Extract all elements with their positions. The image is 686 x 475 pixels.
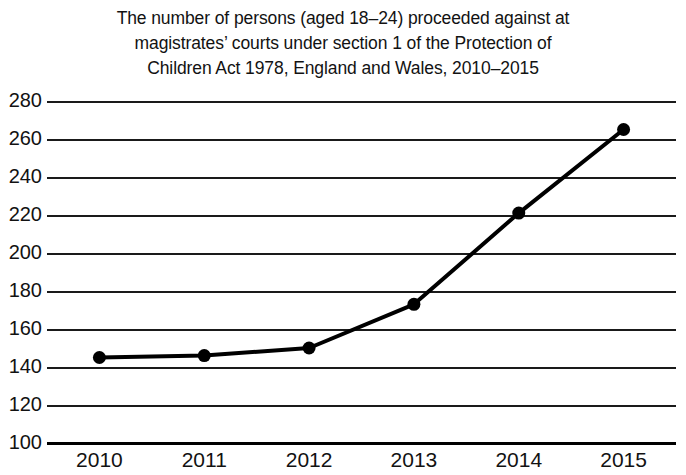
x-axis-tick-label: 2011 xyxy=(164,448,244,472)
gridline xyxy=(47,329,676,331)
gridline xyxy=(47,291,676,293)
gridline xyxy=(47,253,676,255)
y-axis-tick-label: 220 xyxy=(0,204,42,224)
y-axis-tick-label: 140 xyxy=(0,356,42,376)
y-axis-tick-label: 240 xyxy=(0,166,42,186)
y-axis-tick-label: 100 xyxy=(0,432,42,452)
y-axis-tick-label: 200 xyxy=(0,242,42,262)
plot-area xyxy=(47,101,676,443)
gridline xyxy=(47,177,676,179)
chart-title-line-1: The number of persons (aged 18–24) proce… xyxy=(0,6,686,31)
gridline xyxy=(47,405,676,407)
x-axis-tick-label: 2010 xyxy=(59,448,139,472)
y-axis-tick-label: 180 xyxy=(0,280,42,300)
chart-title-line-2: magistrates’ courts under section 1 of t… xyxy=(0,31,686,56)
x-axis-line xyxy=(47,442,676,445)
chart-figure: The number of persons (aged 18–24) proce… xyxy=(0,0,686,475)
chart-title: The number of persons (aged 18–24) proce… xyxy=(0,6,686,81)
chart-title-line-3: Children Act 1978, England and Wales, 20… xyxy=(0,56,686,81)
y-axis-tick-label: 260 xyxy=(0,128,42,148)
gridline xyxy=(47,139,676,141)
y-axis-tick-label: 280 xyxy=(0,90,42,110)
x-axis-tick-label: 2015 xyxy=(584,448,664,472)
gridline xyxy=(47,101,676,103)
y-axis-tick-label: 120 xyxy=(0,394,42,414)
gridline xyxy=(47,215,676,217)
x-axis-tick-label: 2013 xyxy=(374,448,454,472)
gridline xyxy=(47,367,676,369)
y-axis-tick-label: 160 xyxy=(0,318,42,338)
x-axis-tick-label: 2012 xyxy=(269,448,349,472)
x-axis-tick-label: 2014 xyxy=(479,448,559,472)
